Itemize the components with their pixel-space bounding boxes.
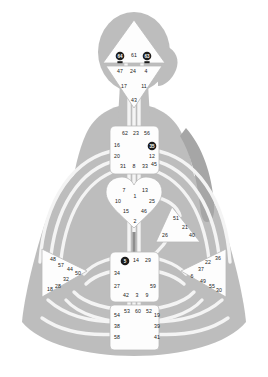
gate-60[interactable]: 60: [135, 308, 141, 314]
gate-number: 46: [141, 208, 147, 214]
gate-34[interactable]: 34: [114, 270, 120, 276]
gate-number: 55: [209, 283, 215, 289]
gate-54[interactable]: 54: [114, 312, 120, 318]
gate-7[interactable]: 7: [123, 187, 126, 193]
gate-9[interactable]: 9: [146, 292, 149, 298]
gate-number: 23: [133, 130, 139, 136]
gate-number: 48: [50, 256, 56, 262]
gate-57[interactable]: 57: [58, 262, 64, 268]
gate-31[interactable]: 31: [120, 163, 126, 169]
gate-6[interactable]: 6: [191, 273, 194, 279]
gate-number: 54: [114, 312, 120, 318]
gate-1[interactable]: 1: [134, 193, 137, 199]
gate-26[interactable]: 26: [162, 232, 168, 238]
gate-30[interactable]: 30: [216, 287, 222, 293]
gate-number: 59: [150, 283, 156, 289]
gate-18[interactable]: 18: [47, 286, 53, 292]
gate-58[interactable]: 58: [114, 334, 120, 340]
gate-23[interactable]: 23: [133, 130, 139, 136]
gate-number: 28: [55, 283, 61, 289]
gate-number: 14: [133, 257, 139, 263]
gate-number: 32: [63, 276, 69, 282]
gate-number: 60: [135, 308, 141, 314]
gate-number: 44: [67, 266, 73, 272]
gate-42[interactable]: 42: [123, 292, 129, 298]
gate-13[interactable]: 13: [142, 187, 148, 193]
gate-14[interactable]: 14: [133, 257, 139, 263]
gate-number: 53: [124, 308, 130, 314]
gate-39[interactable]: 39: [154, 323, 160, 329]
gate-59[interactable]: 59: [150, 283, 156, 289]
gate-48[interactable]: 48: [50, 256, 56, 262]
gate-number: 11: [141, 83, 146, 89]
gate-number: 58: [114, 334, 120, 340]
gate-number: 33: [142, 163, 148, 169]
gate-21[interactable]: 21: [182, 224, 188, 230]
gate-number: 45: [151, 161, 157, 167]
gate-number: 30: [216, 287, 222, 293]
gate-number: 38: [114, 323, 120, 329]
gate-38[interactable]: 38: [114, 323, 120, 329]
gate-45[interactable]: 45: [151, 161, 157, 167]
gate-29[interactable]: 29: [145, 257, 151, 263]
gate-number: 22: [205, 259, 211, 265]
gate-40[interactable]: 40: [189, 232, 195, 238]
gate-56[interactable]: 56: [144, 130, 150, 136]
bodygraph-figure: 6461634724417114362235616352012318334571…: [0, 0, 268, 377]
gate-number: 1: [134, 193, 137, 199]
gate-47[interactable]: 47: [117, 68, 123, 74]
gate-44[interactable]: 44: [67, 266, 73, 272]
gate-16[interactable]: 16: [114, 142, 120, 148]
gate-number: 24: [130, 68, 136, 74]
gate-28[interactable]: 28: [55, 283, 61, 289]
gate-number: 5: [124, 259, 127, 264]
gate-53[interactable]: 53: [124, 308, 130, 314]
gate-15[interactable]: 15: [123, 208, 129, 214]
gate-49[interactable]: 49: [200, 278, 206, 284]
gate-35[interactable]: 35: [148, 142, 157, 151]
gate-17[interactable]: 17: [121, 83, 127, 89]
gate-20[interactable]: 20: [114, 153, 120, 159]
gate-number: 17: [121, 83, 127, 89]
gate-52[interactable]: 52: [146, 308, 152, 314]
gate-2[interactable]: 2: [134, 218, 137, 224]
gate-number: 63: [144, 54, 150, 59]
gate-number: 47: [117, 68, 123, 74]
gate-36[interactable]: 36: [215, 255, 221, 261]
gate-22[interactable]: 22: [205, 259, 211, 265]
gate-27[interactable]: 27: [114, 283, 120, 289]
gate-number: 62: [122, 130, 128, 136]
gate-32[interactable]: 32: [63, 276, 69, 282]
gate-41[interactable]: 41: [154, 334, 160, 340]
gate-number: 4: [145, 68, 148, 74]
gate-61[interactable]: 61: [131, 52, 137, 58]
gate-50[interactable]: 50: [75, 270, 81, 276]
gate-33[interactable]: 33: [142, 163, 148, 169]
gate-activation-tick: [144, 61, 149, 63]
gate-51[interactable]: 51: [173, 215, 179, 221]
gate-46[interactable]: 46: [141, 208, 147, 214]
gate-8[interactable]: 8: [133, 163, 136, 169]
gate-number: 26: [162, 232, 168, 238]
gate-number: 57: [58, 262, 64, 268]
gate-number: 49: [200, 278, 206, 284]
gate-4[interactable]: 4: [145, 68, 148, 74]
gate-37[interactable]: 37: [198, 266, 204, 272]
gate-number: 40: [189, 232, 195, 238]
gate-3[interactable]: 3: [136, 292, 139, 298]
gate-5[interactable]: 5: [121, 257, 130, 266]
gate-number: 12: [149, 153, 155, 159]
gate-12[interactable]: 12: [149, 153, 155, 159]
gate-number: 6: [191, 273, 194, 279]
gate-55[interactable]: 55: [209, 283, 215, 289]
gate-11[interactable]: 11: [141, 83, 146, 89]
gate-number: 8: [133, 163, 136, 169]
gate-number: 25: [149, 198, 155, 204]
gate-25[interactable]: 25: [149, 198, 155, 204]
gate-19[interactable]: 19: [154, 312, 160, 318]
gate-43[interactable]: 43: [131, 97, 137, 103]
gate-62[interactable]: 62: [122, 130, 128, 136]
gate-number: 10: [115, 198, 121, 204]
gate-10[interactable]: 10: [115, 198, 121, 204]
gate-24[interactable]: 24: [130, 68, 136, 74]
